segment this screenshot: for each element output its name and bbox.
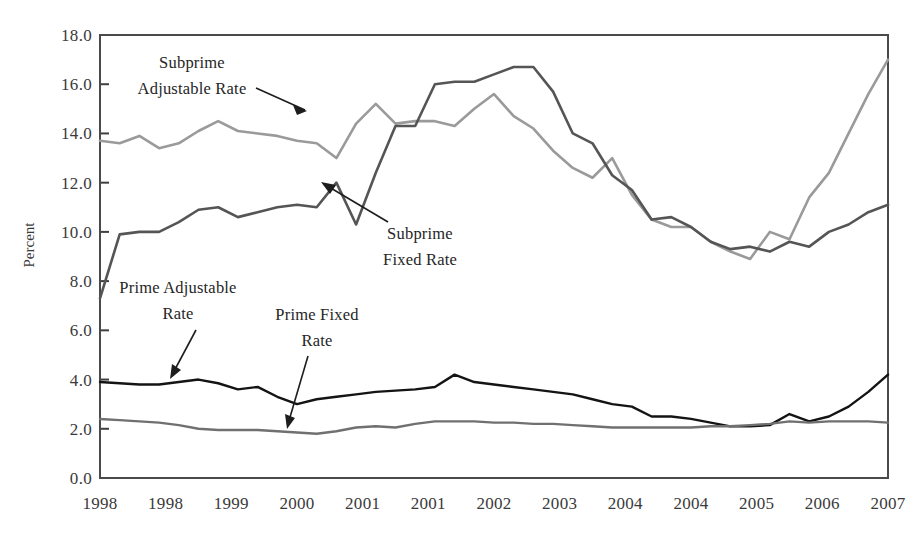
y-axis-title: Percent	[21, 222, 37, 268]
annotation-prime-adjustable-line2: Rate	[162, 304, 193, 323]
annotation-subprime-fixed-line1: Subprime	[387, 224, 453, 243]
annotation-prime-fixed-line1: Prime Fixed	[275, 305, 359, 324]
x-tick-label: 2003	[542, 494, 577, 513]
x-tick-label: 2001	[411, 494, 446, 513]
y-tick-label: 6.0	[70, 321, 92, 340]
annotation-prime-adjustable-line1: Prime Adjustable	[119, 278, 236, 297]
y-tick-label: 8.0	[70, 272, 92, 291]
x-tick-label: 1998	[148, 494, 183, 513]
y-tick-label: 4.0	[70, 371, 92, 390]
annotation-prime-fixed-line2: Rate	[301, 331, 332, 350]
y-tick-label: 12.0	[61, 174, 92, 193]
y-tick-label: 18.0	[61, 26, 92, 45]
annotation-subprime-fixed-line2: Fixed Rate	[383, 250, 457, 269]
y-tick-label: 2.0	[70, 420, 92, 439]
x-tick-label: 2000	[279, 494, 314, 513]
x-tick-label: 2007	[870, 494, 905, 513]
y-tick-label: 0.0	[70, 469, 92, 488]
x-tick-label: 2004	[608, 494, 643, 513]
annotation-subprime-adjustable-line2: Adjustable Rate	[138, 79, 247, 98]
x-tick-label: 1999	[214, 494, 249, 513]
x-tick-label: 2005	[739, 494, 774, 513]
annotation-subprime-adjustable-line1: Subprime	[159, 53, 225, 72]
y-tick-label: 14.0	[61, 124, 92, 143]
x-tick-label: 2001	[345, 494, 380, 513]
line-chart: Percent 0.02.04.06.08.010.012.014.016.01…	[0, 0, 918, 544]
y-axis-title-text: Percent	[21, 222, 37, 268]
chart-container: Percent 0.02.04.06.08.010.012.014.016.01…	[0, 0, 918, 544]
x-tick-label: 2006	[805, 494, 840, 513]
y-tick-label: 10.0	[61, 223, 92, 242]
x-tick-label: 2002	[476, 494, 511, 513]
x-tick-label: 1998	[82, 494, 117, 513]
y-tick-label: 16.0	[61, 75, 92, 94]
x-tick-label: 2004	[673, 494, 708, 513]
